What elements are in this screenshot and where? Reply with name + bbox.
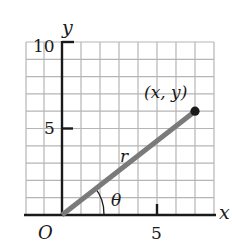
y-axis-label: y — [61, 16, 73, 38]
x-axis-label: x — [219, 201, 230, 223]
origin-label: O — [38, 222, 53, 243]
y-tick-label-5: 5 — [44, 118, 55, 138]
point-label: (x, y) — [144, 82, 187, 102]
angle-label: θ — [111, 190, 121, 210]
y-tick-label-10: 10 — [33, 36, 55, 56]
x-tick-label-5: 5 — [151, 223, 162, 243]
polar-coordinate-diagram: y 10 5 O 5 x (x, y) r θ — [0, 0, 232, 249]
point-marker — [190, 107, 199, 116]
radius-label: r — [120, 146, 129, 166]
